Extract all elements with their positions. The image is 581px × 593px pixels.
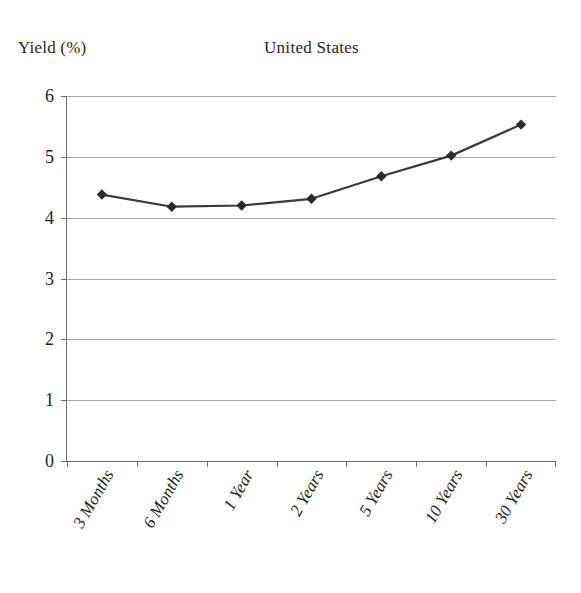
data-point-1-year xyxy=(236,200,246,210)
series-markers-group xyxy=(97,119,527,212)
x-tick-label-10-years: 10 Years xyxy=(422,467,466,526)
x-tick-mark-3 xyxy=(277,461,278,467)
x-tick-mark-5 xyxy=(416,461,417,467)
x-tick-label-3-months: 3 Months xyxy=(70,467,117,531)
chart-title: United States xyxy=(0,38,581,58)
y-tick-label-0: 0 xyxy=(45,452,54,470)
data-point-5-years xyxy=(376,171,386,181)
x-tick-label-1-year: 1 Year xyxy=(220,467,256,513)
data-point-2-years xyxy=(306,194,316,204)
x-tick-mark-1 xyxy=(137,461,138,467)
x-tick-label-30-years: 30 Years xyxy=(492,467,536,526)
data-point-6-months xyxy=(167,202,177,212)
y-tick-label-2: 2 xyxy=(45,330,54,348)
y-tick-label-1: 1 xyxy=(45,391,54,409)
y-tick-label-6: 6 xyxy=(45,87,54,105)
x-tick-mark-7 xyxy=(555,461,556,467)
y-tick-label-5: 5 xyxy=(45,148,54,166)
x-tick-label-5-years: 5 Years xyxy=(356,467,396,519)
data-point-30-years xyxy=(516,119,526,129)
x-tick-mark-6 xyxy=(486,461,487,467)
x-tick-mark-2 xyxy=(207,461,208,467)
y-tick-label-3: 3 xyxy=(45,270,54,288)
data-point-3-months xyxy=(97,189,107,199)
x-tick-mark-0 xyxy=(67,461,68,467)
x-tick-label-2-years: 2 Years xyxy=(287,467,327,519)
series-svg xyxy=(67,96,556,461)
y-tick-label-4: 4 xyxy=(45,209,54,227)
x-tick-label-6-months: 6 Months xyxy=(140,467,187,531)
data-point-10-years xyxy=(446,150,456,160)
gridline-y-0 xyxy=(67,461,556,462)
x-tick-mark-4 xyxy=(346,461,347,467)
plot-area: 0123456 3 Months6 Months1 Year2 Years5 Y… xyxy=(67,96,556,461)
yield-curve-chart: Yield (%) United States 0123456 3 Months… xyxy=(0,0,581,593)
